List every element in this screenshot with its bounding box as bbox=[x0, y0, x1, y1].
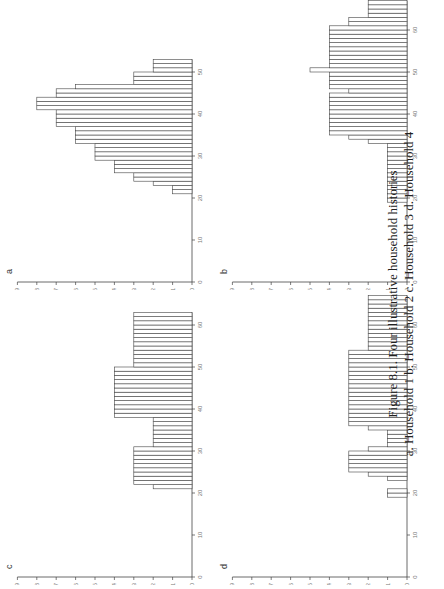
svg-text:8: 8 bbox=[34, 287, 40, 290]
svg-text:9: 9 bbox=[14, 582, 20, 585]
figure-caption: Figure 8.1. Four illustrative household … bbox=[385, 14, 417, 574]
svg-text:0: 0 bbox=[189, 287, 195, 290]
svg-text:1: 1 bbox=[170, 287, 176, 290]
svg-text:2: 2 bbox=[365, 287, 371, 290]
svg-text:60: 60 bbox=[197, 321, 203, 328]
svg-text:9: 9 bbox=[14, 287, 20, 290]
svg-text:7: 7 bbox=[53, 287, 59, 290]
svg-text:7: 7 bbox=[268, 582, 274, 585]
panel-c-household-3: 01234567890102030405060c bbox=[0, 295, 215, 585]
svg-text:2: 2 bbox=[150, 582, 156, 585]
svg-text:b: b bbox=[219, 269, 229, 274]
svg-text:0: 0 bbox=[404, 582, 410, 585]
svg-text:40: 40 bbox=[197, 110, 203, 117]
svg-text:a: a bbox=[4, 269, 14, 274]
svg-text:30: 30 bbox=[197, 447, 203, 454]
svg-text:1: 1 bbox=[385, 582, 391, 585]
histogram-c: 01234567890102030405060c bbox=[0, 295, 215, 585]
svg-text:8: 8 bbox=[249, 582, 255, 585]
svg-text:8: 8 bbox=[249, 287, 255, 290]
svg-text:0: 0 bbox=[412, 575, 418, 579]
svg-text:1: 1 bbox=[170, 582, 176, 585]
svg-text:4: 4 bbox=[326, 287, 332, 290]
svg-text:9: 9 bbox=[229, 582, 235, 585]
svg-text:5: 5 bbox=[307, 582, 313, 585]
svg-text:10: 10 bbox=[197, 531, 203, 538]
svg-text:40: 40 bbox=[197, 405, 203, 412]
histogram-a: 012345678901020304050a bbox=[0, 0, 215, 290]
svg-text:4: 4 bbox=[326, 582, 332, 585]
svg-text:2: 2 bbox=[150, 287, 156, 290]
svg-text:0: 0 bbox=[197, 575, 203, 579]
svg-text:c: c bbox=[4, 564, 14, 569]
svg-text:0: 0 bbox=[189, 582, 195, 585]
caption-subtitle: a. Household 1 b. Household 2 c. Househo… bbox=[401, 14, 417, 574]
svg-text:20: 20 bbox=[197, 194, 203, 201]
svg-text:8: 8 bbox=[34, 582, 40, 585]
svg-text:0: 0 bbox=[197, 280, 203, 284]
svg-text:6: 6 bbox=[288, 287, 294, 290]
svg-text:6: 6 bbox=[73, 582, 79, 585]
svg-text:20: 20 bbox=[197, 489, 203, 496]
svg-text:6: 6 bbox=[73, 287, 79, 290]
svg-text:9: 9 bbox=[229, 287, 235, 290]
svg-text:4: 4 bbox=[111, 582, 117, 585]
panel-a-household-1: 012345678901020304050a bbox=[0, 0, 215, 290]
svg-text:7: 7 bbox=[268, 287, 274, 290]
svg-text:5: 5 bbox=[92, 582, 98, 585]
svg-text:5: 5 bbox=[92, 287, 98, 290]
svg-text:3: 3 bbox=[131, 582, 137, 585]
svg-text:10: 10 bbox=[197, 236, 203, 243]
svg-text:5: 5 bbox=[307, 287, 313, 290]
svg-text:50: 50 bbox=[197, 68, 203, 75]
svg-text:2: 2 bbox=[365, 582, 371, 585]
svg-text:6: 6 bbox=[288, 582, 294, 585]
svg-text:d: d bbox=[219, 564, 229, 569]
caption-title: Figure 8.1. Four illustrative household … bbox=[385, 14, 401, 574]
svg-text:3: 3 bbox=[131, 287, 137, 290]
svg-text:30: 30 bbox=[197, 152, 203, 159]
svg-text:4: 4 bbox=[111, 287, 117, 290]
svg-text:3: 3 bbox=[346, 287, 352, 290]
svg-text:50: 50 bbox=[197, 363, 203, 370]
svg-text:3: 3 bbox=[346, 582, 352, 585]
svg-text:7: 7 bbox=[53, 582, 59, 585]
